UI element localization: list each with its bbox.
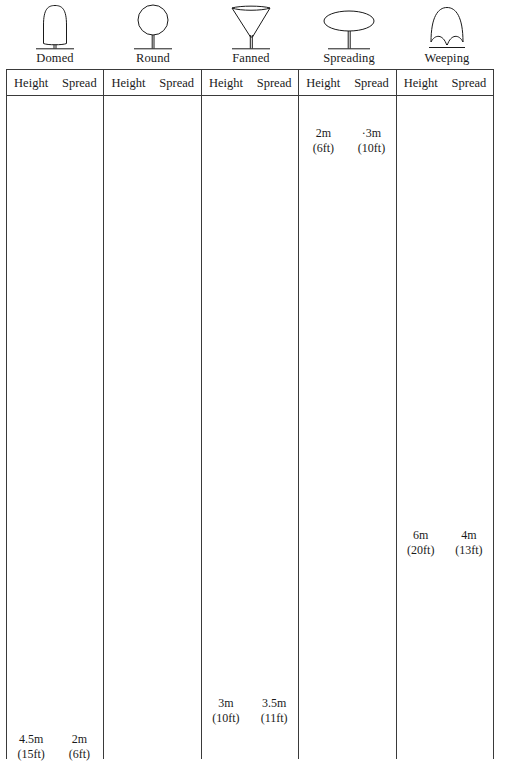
shape-label-domed: Domed [36, 51, 73, 68]
spread-imperial: (13ft) [445, 543, 493, 558]
column-body-fanned: 3m (10ft) 3.5m (11ft) [202, 96, 298, 759]
column-body-round [104, 96, 200, 759]
table-row: 4.5m (15ft) 2m (6ft) [7, 732, 103, 761]
domed-tree-icon [6, 1, 104, 51]
column-body-weeping: 6m (20ft) 4m (13ft) [397, 96, 493, 759]
shape-cell-weeping: Weeping [398, 0, 496, 68]
header-cell-height: Height [299, 76, 347, 90]
shape-cell-round: Round [104, 0, 202, 68]
height-metric: 4.5m [7, 732, 55, 747]
column-body-spreading: 2m (6ft) ·3m (10ft) [299, 96, 395, 759]
column-header-spreading: Height Spread [299, 70, 395, 96]
header-cell-spread: Spread [250, 76, 298, 90]
table-column-round: Height Spread [104, 70, 201, 759]
table-column-spreading: Height Spread 2m (6ft) ·3m (10ft) [299, 70, 396, 759]
header-cell-height: Height [104, 76, 152, 90]
spread-imperial: (10ft) [347, 141, 395, 156]
column-body-domed: 4.5m (15ft) 2m (6ft) [7, 96, 103, 759]
header-cell-height: Height [397, 76, 445, 90]
header-cell-height: Height [7, 76, 55, 90]
column-header-domed: Height Spread [7, 70, 103, 96]
spread-metric: 2m [55, 732, 103, 747]
height-imperial: (15ft) [7, 747, 55, 762]
shape-label-weeping: Weeping [425, 51, 470, 68]
tree-shape-icon-strip: Domed Round Fanne [6, 0, 495, 68]
shape-label-round: Round [136, 51, 170, 68]
header-cell-height: Height [202, 76, 250, 90]
height-metric: 2m [299, 126, 347, 141]
weeping-tree-icon [398, 1, 496, 51]
header-cell-spread: Spread [445, 76, 493, 90]
value-cell-height: 2m (6ft) [299, 126, 347, 155]
table-row: 6m (20ft) 4m (13ft) [397, 528, 493, 557]
height-metric: 6m [397, 528, 445, 543]
value-cell-spread: ·3m (10ft) [347, 126, 395, 155]
table-column-fanned: Height Spread 3m (10ft) 3.5m (11ft) [202, 70, 299, 759]
spread-imperial: (11ft) [250, 711, 298, 726]
round-tree-icon [104, 1, 202, 51]
spreading-tree-icon [300, 1, 398, 51]
column-header-round: Height Spread [104, 70, 200, 96]
value-cell-height: 6m (20ft) [397, 528, 445, 557]
value-cell-spread: 3.5m (11ft) [250, 696, 298, 725]
height-imperial: (20ft) [397, 543, 445, 558]
height-imperial: (6ft) [299, 141, 347, 156]
tree-dimensions-table: Height Spread 4.5m (15ft) 2m (6ft) Heigh… [6, 69, 494, 759]
header-cell-spread: Spread [347, 76, 395, 90]
spread-metric: ·3m [347, 126, 395, 141]
spread-metric: 3.5m [250, 696, 298, 711]
spread-metric: 4m [445, 528, 493, 543]
shape-label-spreading: Spreading [323, 51, 375, 68]
height-metric: 3m [202, 696, 250, 711]
value-cell-height: 3m (10ft) [202, 696, 250, 725]
header-cell-spread: Spread [153, 76, 201, 90]
table-row: 2m (6ft) ·3m (10ft) [299, 126, 395, 155]
header-cell-spread: Spread [55, 76, 103, 90]
value-cell-height: 4.5m (15ft) [7, 732, 55, 761]
table-row: 3m (10ft) 3.5m (11ft) [202, 696, 298, 725]
spread-metric-text: 3m [366, 126, 381, 140]
height-imperial: (10ft) [202, 711, 250, 726]
fanned-tree-icon [202, 1, 300, 51]
column-header-fanned: Height Spread [202, 70, 298, 96]
table-column-domed: Height Spread 4.5m (15ft) 2m (6ft) [7, 70, 104, 759]
value-cell-spread: 4m (13ft) [445, 528, 493, 557]
shape-cell-spreading: Spreading [300, 0, 398, 68]
shape-label-fanned: Fanned [232, 51, 269, 68]
column-header-weeping: Height Spread [397, 70, 493, 96]
value-cell-spread: 2m (6ft) [55, 732, 103, 761]
table-column-weeping: Height Spread 6m (20ft) 4m (13ft) [397, 70, 493, 759]
spread-imperial: (6ft) [55, 747, 103, 762]
shape-cell-domed: Domed [6, 0, 104, 68]
shape-cell-fanned: Fanned [202, 0, 300, 68]
